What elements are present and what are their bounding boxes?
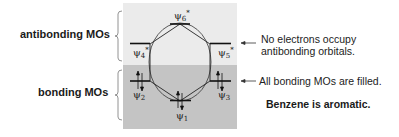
- aromatic-conclusion: Benzene is aromatic.: [266, 98, 370, 110]
- bonding-arrow: [241, 80, 256, 83]
- bonding-brace: [115, 70, 122, 120]
- bonding-note: All bonding MOs are filled.: [259, 75, 382, 87]
- antibonding-note-line1: No electrons occupy: [261, 33, 356, 45]
- antibonding-arrow: [241, 42, 256, 45]
- antibonding-note-line2: antibonding orbitals.: [261, 45, 356, 57]
- antibonding-note: No electrons occupy antibonding orbitals…: [261, 33, 356, 57]
- antibonding-brace: [115, 11, 122, 61]
- mo-diagram: ψ6* ψ4* ψ5* ψ2 ψ3 ψ1: [0, 0, 399, 137]
